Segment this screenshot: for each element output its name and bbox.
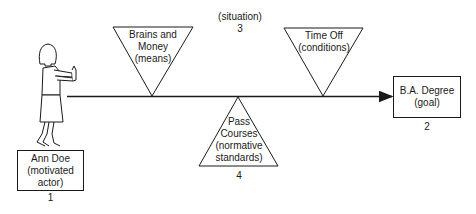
norms-label: Pass Courses (normative standards) [203, 116, 275, 164]
situation-number: 3 [200, 23, 280, 35]
goal-desc: (goal) [414, 97, 440, 109]
means-line-3: (means) [118, 53, 188, 65]
actor-name: Ann Doe [31, 153, 70, 165]
goal-name: B.A. Degree [400, 85, 454, 97]
actor-number: 1 [17, 192, 84, 204]
goal-number: 2 [393, 121, 461, 133]
goal-box: B.A. Degree (goal) [393, 76, 461, 118]
conditions-line-1: Time Off [288, 30, 360, 42]
means-line-1: Brains and [118, 29, 188, 41]
actor-figure-icon [37, 44, 76, 146]
means-label: Brains and Money (means) [118, 29, 188, 65]
conditions-label: Time Off (conditions) [288, 30, 360, 54]
norms-line-1: Pass [203, 116, 275, 128]
situation-label: (situation) [200, 11, 280, 23]
norms-number: 4 [203, 170, 275, 182]
norms-line-2: Courses [203, 128, 275, 140]
norms-line-3: (normative [203, 140, 275, 152]
means-line-2: Money [118, 41, 188, 53]
conditions-line-2: (conditions) [288, 42, 360, 54]
actor-desc: (motivated [27, 165, 74, 177]
actor-desc-2: actor) [38, 177, 64, 189]
actor-box: Ann Doe (motivated actor) [17, 150, 84, 191]
norms-line-4: standards) [203, 152, 275, 164]
